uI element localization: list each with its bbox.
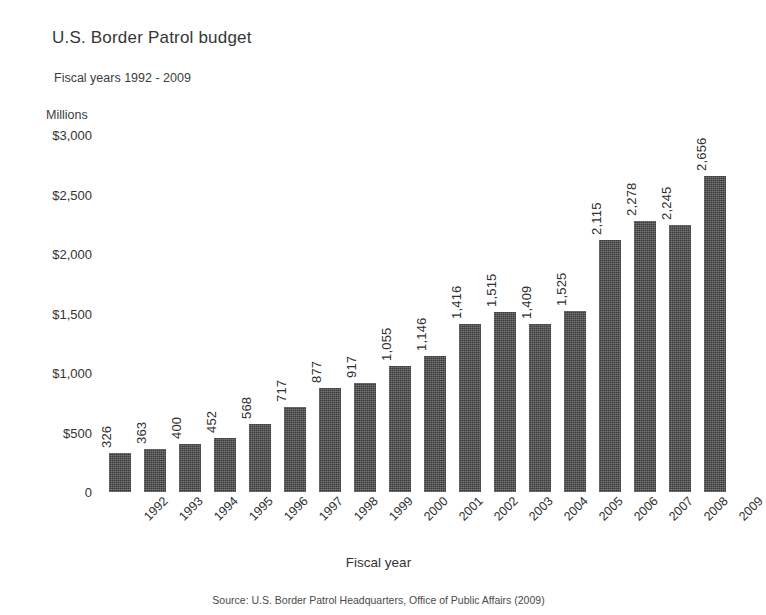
bar [634, 221, 656, 492]
bar [529, 324, 551, 492]
bar [599, 240, 621, 492]
bar-slot: 1,416 [453, 135, 488, 492]
x-axis-tick-label: 2007 [666, 494, 696, 524]
y-axis-tick-label: 0 [85, 485, 92, 500]
bar [459, 324, 481, 493]
x-axis-tick-label: 1992 [141, 494, 171, 524]
x-axis-tick-label: 2000 [421, 494, 451, 524]
bar-slot: 568 [243, 135, 278, 492]
bar-value-label: 877 [309, 360, 324, 382]
bar-value-label: 363 [134, 422, 149, 444]
bar-value-label: 452 [204, 411, 219, 433]
bar-value-label: 717 [274, 379, 289, 401]
bar-slot: 2,245 [663, 135, 698, 492]
bar-slot: 877 [313, 135, 348, 492]
bar-value-label: 2,656 [694, 137, 709, 171]
x-axis-tick-label: 1995 [246, 494, 276, 524]
bar-slot: 2,115 [593, 135, 628, 492]
bar [704, 176, 726, 492]
bar [564, 311, 586, 492]
bar-value-label: 1,409 [519, 286, 534, 320]
bar-value-label: 1,416 [449, 285, 464, 319]
x-axis-tick-label: 1996 [281, 494, 311, 524]
bar-value-label: 1,055 [379, 328, 394, 362]
bar-value-label: 2,278 [624, 182, 639, 216]
bar-value-label: 1,515 [484, 273, 499, 307]
bar [319, 388, 341, 492]
bar-slot: 2,278 [628, 135, 663, 492]
bar [214, 438, 236, 492]
y-axis-tick-label: $2,500 [52, 187, 92, 202]
bar-slot: 1,409 [523, 135, 558, 492]
plot-area: $3,000$2,500$2,000$1,500$1,000$5000 3263… [103, 135, 748, 492]
bar-value-label: 2,245 [659, 186, 674, 220]
y-axis-unit-label: Millions [46, 108, 88, 122]
bar-value-label: 400 [169, 417, 184, 439]
x-axis-tick-label: 1994 [211, 494, 241, 524]
x-axis-tick-label: 2003 [526, 494, 556, 524]
x-axis-tick-label: 1993 [176, 494, 206, 524]
bar-slot: 1,055 [383, 135, 418, 492]
bar-slot: 1,146 [418, 135, 453, 492]
x-axis-tick-label: 1998 [351, 494, 381, 524]
bar-slot: 400 [173, 135, 208, 492]
x-axis-tick-label: 1999 [386, 494, 416, 524]
x-axis-tick-labels: 1992199319941995199619971998199920002001… [103, 494, 748, 544]
bar [354, 383, 376, 492]
bar-slot: 326 [103, 135, 138, 492]
bar [284, 407, 306, 492]
bar-slot: 717 [278, 135, 313, 492]
y-axis-tick-label: $1,000 [52, 366, 92, 381]
bar [109, 453, 131, 492]
bar [669, 225, 691, 492]
bar-slot: 1,525 [558, 135, 593, 492]
bar-value-label: 568 [239, 397, 254, 419]
bar [424, 356, 446, 492]
bar-series: 3263634004525687178779171,0551,1461,4161… [103, 135, 748, 492]
x-axis-tick-label: 2005 [596, 494, 626, 524]
bar-slot: 917 [348, 135, 383, 492]
bar [389, 366, 411, 492]
chart-subtitle: Fiscal years 1992 - 2009 [54, 71, 191, 85]
x-axis-tick-label: 2006 [631, 494, 661, 524]
chart-title: U.S. Border Patrol budget [52, 28, 252, 48]
source-note: Source: U.S. Border Patrol Headquarters,… [0, 594, 757, 606]
bar-value-label: 1,525 [554, 272, 569, 306]
bar [249, 424, 271, 492]
y-axis-tick-label: $3,000 [52, 128, 92, 143]
bar-slot: 1,515 [488, 135, 523, 492]
bar-value-label: 326 [99, 426, 114, 448]
x-axis-tick-label: 2002 [491, 494, 521, 524]
x-axis-tick-label: 2001 [456, 494, 486, 524]
x-axis-tick-label: 2009 [736, 494, 766, 524]
x-axis-tick-label: 1997 [316, 494, 346, 524]
x-axis-tick-label: 2008 [701, 494, 731, 524]
bar [144, 449, 166, 492]
y-axis-tick-label: $500 [63, 425, 92, 440]
y-axis-tick-label: $1,500 [52, 306, 92, 321]
bar-value-label: 1,146 [414, 317, 429, 351]
x-axis-tick-label: 2004 [561, 494, 591, 524]
bar-slot: 452 [208, 135, 243, 492]
bar [179, 444, 201, 492]
bar-value-label: 917 [344, 356, 359, 378]
x-axis-title: Fiscal year [0, 555, 757, 570]
bar-value-label: 2,115 [589, 203, 604, 236]
bar-slot: 2,656 [698, 135, 733, 492]
bar-slot: 363 [138, 135, 173, 492]
bar [494, 312, 516, 492]
y-axis-tick-label: $2,000 [52, 247, 92, 262]
